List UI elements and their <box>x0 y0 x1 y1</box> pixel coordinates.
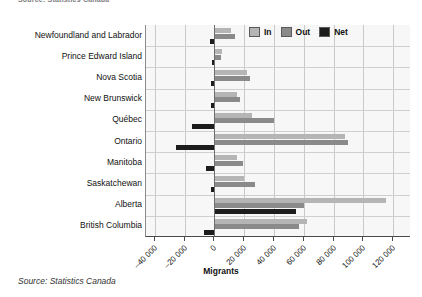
legend-item[interactable]: Net <box>319 27 348 37</box>
bar-net[interactable] <box>204 230 214 235</box>
bar-out[interactable] <box>214 55 221 60</box>
bar-net[interactable] <box>192 124 214 129</box>
bar-out[interactable] <box>214 161 242 166</box>
bar-in[interactable] <box>214 70 247 75</box>
bar-group <box>146 46 410 67</box>
category-label: New Brunswick <box>0 93 142 103</box>
bar-out[interactable] <box>214 140 348 145</box>
category-label: Saskatchewan <box>0 178 142 188</box>
bar-out[interactable] <box>214 182 254 187</box>
x-tick-mark <box>362 237 363 241</box>
bar-group <box>146 173 410 194</box>
bar-group <box>146 89 410 110</box>
legend-swatch-icon <box>319 27 330 37</box>
bar-out[interactable] <box>214 203 303 208</box>
category-label: Prince Edward Island <box>0 51 142 61</box>
x-tick-mark <box>213 237 214 241</box>
chart-legend: InOutNet <box>249 27 348 37</box>
legend-item[interactable]: Out <box>281 27 311 37</box>
x-axis-title: Migrants <box>0 266 422 276</box>
migration-bar-chart: Newfoundland and LabradorPrince Edward I… <box>0 0 422 297</box>
zero-axis-line <box>214 25 215 236</box>
source-note: Source: Statistics Canada <box>18 276 116 286</box>
plot-area <box>145 25 410 237</box>
bar-group <box>146 110 410 131</box>
bar-group <box>146 195 410 216</box>
bar-group <box>146 67 410 88</box>
legend-label: Out <box>296 27 311 37</box>
x-tick-mark <box>273 237 274 241</box>
category-label: Manitoba <box>0 157 142 167</box>
bar-group <box>146 152 410 173</box>
bar-in[interactable] <box>214 92 236 97</box>
bar-in[interactable] <box>214 113 251 118</box>
bar-out[interactable] <box>214 224 299 229</box>
bar-net[interactable] <box>206 166 215 171</box>
bar-out[interactable] <box>214 97 239 102</box>
bar-net[interactable] <box>176 145 215 150</box>
x-tick-mark <box>154 237 155 241</box>
x-tick-mark <box>392 237 393 241</box>
legend-label: In <box>264 27 272 37</box>
bar-in[interactable] <box>214 155 236 160</box>
x-tick-mark <box>184 237 185 241</box>
bar-out[interactable] <box>214 76 250 81</box>
category-label: Nova Scotia <box>0 72 142 82</box>
bar-in[interactable] <box>214 219 306 224</box>
legend-item[interactable]: In <box>249 27 272 37</box>
x-tick-mark <box>243 237 244 241</box>
bar-group <box>146 216 410 237</box>
legend-swatch-icon <box>249 27 260 37</box>
legend-label: Net <box>334 27 348 37</box>
category-label: British Columbia <box>0 220 142 230</box>
category-label: Alberta <box>0 199 142 209</box>
x-tick-mark <box>303 237 304 241</box>
bar-group <box>146 131 410 152</box>
bar-in[interactable] <box>214 176 244 181</box>
bar-out[interactable] <box>214 34 235 39</box>
bar-net[interactable] <box>214 209 296 214</box>
bar-in[interactable] <box>214 49 221 54</box>
bar-in[interactable] <box>214 134 345 139</box>
legend-swatch-icon <box>281 27 292 37</box>
category-label: Newfoundland and Labrador <box>0 30 142 40</box>
x-tick-mark <box>333 237 334 241</box>
bar-in[interactable] <box>214 198 385 203</box>
category-label: Québec <box>0 114 142 124</box>
bar-out[interactable] <box>214 118 274 123</box>
category-label: Ontario <box>0 136 142 146</box>
bar-in[interactable] <box>214 28 230 33</box>
